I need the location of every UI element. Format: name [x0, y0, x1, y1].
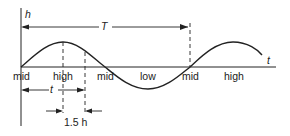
phase-label-low: low — [140, 71, 156, 82]
period-label: T — [101, 21, 107, 32]
phase-label-mid-1: mid — [13, 71, 30, 82]
phase-label-mid-3: mid — [182, 71, 199, 82]
phase-label-high-2: high — [224, 71, 244, 82]
y-axis-label: h — [25, 9, 31, 20]
phase-label-mid-2: mid — [97, 71, 114, 82]
waveform-diagram — [0, 0, 290, 136]
x-axis-label: t — [267, 55, 270, 66]
time-label: t — [50, 84, 53, 95]
phase-label-high-1: high — [53, 71, 73, 82]
offset-label: 1.5 h — [64, 117, 87, 128]
